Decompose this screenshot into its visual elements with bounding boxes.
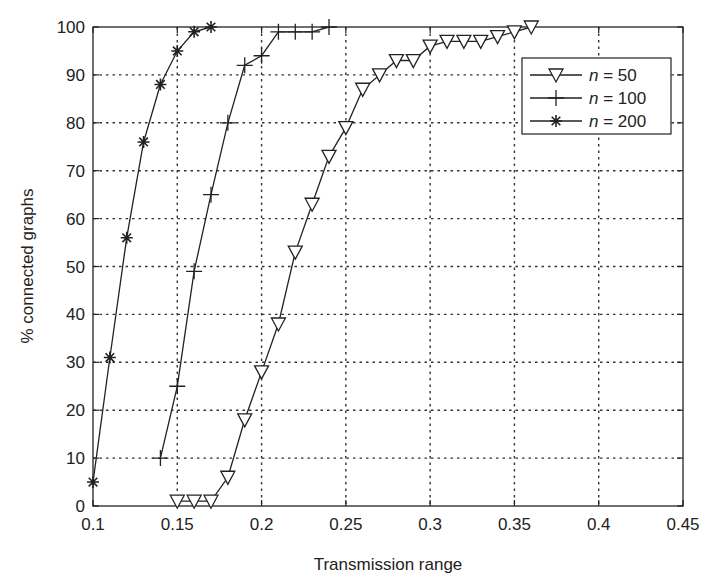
y-tick-label: 90 bbox=[66, 66, 85, 85]
asterisk-marker bbox=[205, 21, 217, 33]
y-tick-label: 80 bbox=[66, 114, 85, 133]
triangle-marker bbox=[322, 150, 336, 163]
asterisk-marker bbox=[87, 476, 99, 488]
legend-label: n = 50 bbox=[589, 66, 637, 85]
asterisk-marker bbox=[138, 136, 150, 148]
y-tick-label: 50 bbox=[66, 258, 85, 277]
plus-marker bbox=[220, 115, 236, 131]
triangle-marker bbox=[271, 318, 285, 331]
plus-marker bbox=[186, 263, 202, 279]
y-axis-label: % connected graphs bbox=[18, 189, 37, 344]
triangle-marker bbox=[305, 198, 319, 211]
series-line bbox=[177, 27, 531, 501]
y-tick-label: 70 bbox=[66, 162, 85, 181]
y-tick-label: 10 bbox=[66, 449, 85, 468]
triangle-marker bbox=[507, 26, 521, 39]
triangle-marker bbox=[491, 31, 505, 44]
series-n100 bbox=[152, 19, 337, 466]
plus-marker bbox=[254, 48, 270, 64]
x-tick-label: 0.2 bbox=[250, 515, 274, 534]
legend-label: n = 200 bbox=[589, 112, 646, 131]
triangle-marker bbox=[288, 246, 302, 259]
x-tick-label: 0.3 bbox=[418, 515, 442, 534]
plus-marker bbox=[270, 24, 286, 40]
plus-marker bbox=[321, 19, 337, 35]
asterisk-marker bbox=[104, 352, 116, 364]
triangle-marker bbox=[238, 414, 252, 427]
plus-marker bbox=[152, 450, 168, 466]
y-tick-label: 40 bbox=[66, 305, 85, 324]
asterisk-marker bbox=[188, 26, 200, 38]
triangle-marker bbox=[255, 366, 269, 379]
triangle-marker bbox=[339, 122, 353, 135]
y-tick-label: 20 bbox=[66, 401, 85, 420]
series-line bbox=[160, 27, 329, 458]
line-chart: 0102030405060708090100 0.10.150.20.250.3… bbox=[0, 0, 718, 584]
triangle-marker bbox=[423, 40, 437, 53]
asterisk-marker bbox=[550, 115, 562, 127]
x-tick-label: 0.1 bbox=[81, 515, 105, 534]
asterisk-marker bbox=[121, 232, 133, 244]
x-tick-label: 0.35 bbox=[498, 515, 531, 534]
x-tick-label: 0.25 bbox=[329, 515, 362, 534]
y-tick-label: 60 bbox=[66, 210, 85, 229]
y-tick-label: 30 bbox=[66, 353, 85, 372]
plus-marker bbox=[169, 378, 185, 394]
x-tick-label: 0.4 bbox=[587, 515, 611, 534]
legend: n = 50n = 100n = 200 bbox=[522, 58, 671, 134]
asterisk-marker bbox=[154, 78, 166, 90]
y-tick-label: 0 bbox=[76, 497, 85, 516]
x-tick-label: 0.15 bbox=[161, 515, 194, 534]
series-n50 bbox=[170, 21, 538, 508]
x-axis-label: Transmission range bbox=[314, 555, 463, 574]
legend-label: n = 100 bbox=[589, 89, 646, 108]
plus-marker bbox=[237, 57, 253, 73]
x-tick-label: 0.45 bbox=[666, 515, 699, 534]
series-line bbox=[93, 27, 211, 482]
y-tick-label: 100 bbox=[57, 18, 85, 37]
asterisk-marker bbox=[171, 45, 183, 57]
plus-marker bbox=[287, 24, 303, 40]
triangle-marker bbox=[356, 83, 370, 96]
data-series bbox=[87, 19, 538, 508]
plus-marker bbox=[304, 24, 320, 40]
triangle-marker bbox=[221, 471, 235, 484]
plus-marker bbox=[203, 187, 219, 203]
